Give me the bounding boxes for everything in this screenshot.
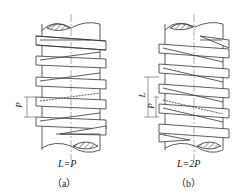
panel-a-drawing: [24, 23, 106, 153]
panel-b-pitch-label: P: [146, 103, 156, 109]
thread-diagram: [0, 0, 247, 196]
panel-b-caption: （b）: [176, 175, 201, 190]
panel-b-lead-label: L: [137, 92, 147, 97]
panel-b-drawing: [144, 23, 229, 153]
panel-a-caption: （a）: [52, 175, 76, 190]
panel-b-formula: L=2P: [177, 158, 200, 169]
panel-a-pitch-label: P: [14, 102, 24, 108]
panel-a-formula: L=P: [58, 158, 76, 169]
